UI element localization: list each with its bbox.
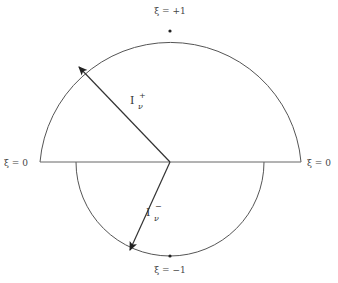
- lower-vector-label: I − ν: [146, 202, 162, 223]
- label-left: ξ = 0: [4, 158, 28, 168]
- bottom-pole-dot: [168, 254, 171, 257]
- svg-text:ν: ν: [138, 102, 143, 111]
- svg-text:−: −: [155, 202, 162, 211]
- intensity-diagram: ξ = +1 ξ = −1 ξ = 0 ξ = 0 I + ν I − ν: [0, 0, 338, 283]
- svg-text:I: I: [146, 206, 150, 219]
- upper-intensity-arrow: [79, 67, 170, 162]
- upper-vector-label: I + ν: [130, 91, 146, 111]
- label-bottom: ξ = −1: [154, 265, 186, 275]
- label-right: ξ = 0: [307, 158, 331, 168]
- svg-text:I: I: [130, 94, 134, 107]
- svg-text:ν: ν: [154, 214, 159, 223]
- upper-hemisphere-arc: [40, 42, 301, 162]
- lower-hemisphere-arc: [76, 162, 264, 256]
- svg-text:+: +: [139, 91, 146, 100]
- top-pole-dot: [168, 29, 171, 32]
- label-top: ξ = +1: [154, 6, 186, 16]
